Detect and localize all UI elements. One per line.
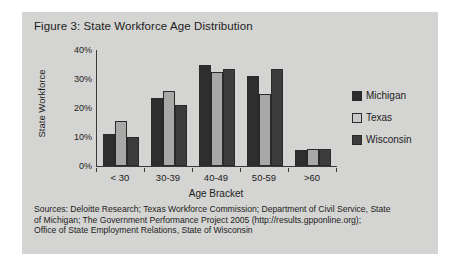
plot-area — [96, 50, 337, 167]
y-axis-tick: 40% — [74, 45, 92, 55]
bar — [259, 94, 271, 167]
bar — [271, 69, 283, 166]
legend-swatch-icon — [352, 91, 362, 101]
sources-line-2: of Michigan; The Government Performance … — [34, 215, 432, 226]
x-axis-tick-labels: < 3030-3940-4950-59>60 — [96, 172, 336, 183]
bar — [247, 76, 259, 166]
y-axis-tick: 20% — [74, 103, 92, 113]
bar-groups — [97, 50, 337, 166]
sources-line-3: Office of State Employment Relations, St… — [34, 225, 432, 236]
y-axis-tick: 0% — [79, 161, 92, 171]
legend-swatch-icon — [352, 135, 362, 145]
x-axis-tickmark — [336, 168, 337, 172]
bar-group — [103, 50, 139, 166]
chart-legend: MichiganTexasWisconsin — [352, 90, 436, 156]
bar-group — [199, 50, 235, 166]
bar — [199, 65, 211, 167]
x-axis-tick: 40-49 — [192, 172, 240, 183]
x-axis-title: Age Bracket — [96, 188, 336, 199]
bar — [115, 121, 127, 166]
legend-item: Wisconsin — [352, 134, 436, 145]
bar — [151, 98, 163, 166]
bar — [307, 149, 319, 166]
x-axis-tick: < 30 — [96, 172, 144, 183]
bar — [163, 91, 175, 166]
bar-group — [295, 50, 331, 166]
y-axis-title: State Workforce — [36, 49, 47, 159]
figure-panel: Figure 3: State Workforce Age Distributi… — [22, 12, 438, 254]
bar — [223, 69, 235, 166]
legend-label: Wisconsin — [366, 134, 412, 145]
bar-group — [247, 50, 283, 166]
figure-title: Figure 3: State Workforce Age Distributi… — [34, 20, 253, 32]
x-axis-tick: 30-39 — [144, 172, 192, 183]
legend-item: Michigan — [352, 90, 436, 101]
bar-group — [151, 50, 187, 166]
legend-label: Texas — [366, 112, 392, 123]
bar — [127, 137, 139, 166]
bar — [295, 150, 307, 166]
y-axis-tick: 30% — [74, 74, 92, 84]
x-axis-tick: 50-59 — [240, 172, 288, 183]
y-axis-tick: 10% — [74, 132, 92, 142]
legend-label: Michigan — [366, 90, 406, 101]
y-axis-tick-labels: 40%30%20%10%0% — [56, 50, 94, 166]
x-axis-tick: >60 — [288, 172, 336, 183]
sources-line-1: Sources: Deloitte Research; Texas Workfo… — [34, 204, 432, 215]
legend-swatch-icon — [352, 113, 362, 123]
bar — [211, 72, 223, 166]
bar — [175, 105, 187, 166]
legend-item: Texas — [352, 112, 436, 123]
sources-note: Sources: Deloitte Research; Texas Workfo… — [34, 204, 432, 236]
chart-plot-wrapper: State Workforce 40%30%20%10%0% < 3030-39… — [22, 38, 438, 188]
bar — [319, 149, 331, 166]
bar — [103, 134, 115, 166]
